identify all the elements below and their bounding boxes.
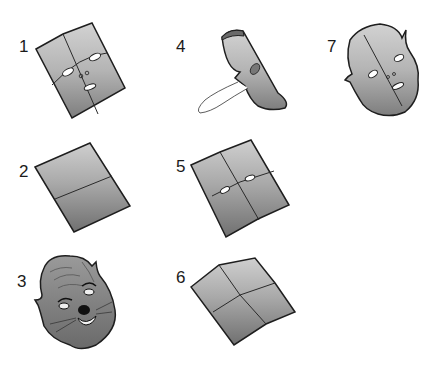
nose-icon xyxy=(78,305,90,315)
eye-icon xyxy=(84,289,94,295)
figure-step-3 xyxy=(35,256,115,349)
figure-step-4 xyxy=(198,30,286,113)
figure-step-6 xyxy=(191,258,295,345)
figure-step-5 xyxy=(191,140,289,237)
cut-outline-icon xyxy=(198,82,248,113)
figure-step-2 xyxy=(35,143,130,232)
eye-icon xyxy=(59,303,69,309)
figure-step-7 xyxy=(345,24,418,116)
illustration-canvas xyxy=(0,0,442,369)
figure-step-1 xyxy=(36,23,125,118)
